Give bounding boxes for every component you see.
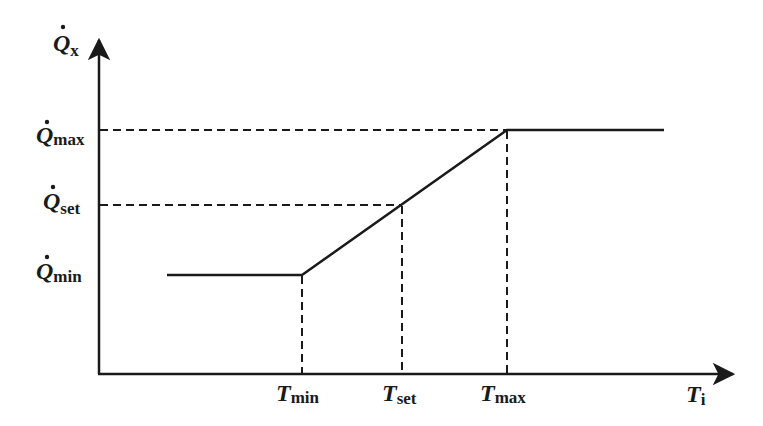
- svg-text:Qmin: Qmin: [36, 258, 82, 286]
- svg-text:Qx: Qx: [53, 30, 79, 60]
- y-tick-qmax: Qmax: [36, 120, 85, 149]
- x-tick-tmax: Tmax: [480, 380, 526, 407]
- svg-text:Qmax: Qmax: [36, 122, 85, 149]
- svg-text:Qset: Qset: [43, 188, 81, 218]
- characteristic-line: [167, 130, 664, 275]
- y-tick-qset: Qset: [43, 185, 81, 218]
- x-axis-label: Ti: [686, 381, 706, 409]
- guide-lines: [100, 130, 507, 373]
- dot-icon: [61, 25, 65, 29]
- x-tick-tmin: Tmin: [276, 380, 320, 407]
- control-characteristic-diagram: Qx Qmax Qset Qmin Tmin Tset Tmax Ti: [0, 0, 763, 426]
- y-tick-qmin: Qmin: [36, 255, 82, 286]
- y-axis-label: Qx: [53, 25, 79, 60]
- x-tick-tset: Tset: [382, 380, 417, 408]
